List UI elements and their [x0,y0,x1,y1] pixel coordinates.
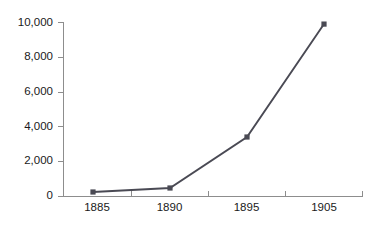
y-tick-label-0: 0 [47,189,53,201]
data-point-1895 [244,134,249,139]
x-tick-label-1905: 1905 [311,201,337,213]
y-tick-label-6000: 6,000 [24,85,53,97]
data-series-group [90,21,326,194]
x-tick-label-1890: 1890 [157,201,183,213]
data-point-1890 [167,185,172,190]
series-marker-group [90,21,326,194]
x-axis-tick-labels: 1885 1890 1895 1905 [84,201,337,213]
line-chart-figure: 0 2,000 4,000 6,000 8,000 10,000 1885 18… [0,0,383,229]
y-axis-ticks [58,23,64,197]
x-tick-label-1895: 1895 [234,201,260,213]
y-tick-label-4000: 4,000 [24,120,53,132]
y-tick-label-10000: 10,000 [18,16,53,28]
y-axis-tick-labels: 0 2,000 4,000 6,000 8,000 10,000 [18,16,53,201]
chart-canvas: 0 2,000 4,000 6,000 8,000 10,000 1885 18… [0,0,383,229]
series-line-path [93,24,324,192]
x-tick-label-1885: 1885 [84,201,110,213]
data-point-1905 [321,21,326,26]
data-point-1885 [90,189,95,194]
y-tick-label-8000: 8,000 [24,50,53,62]
y-tick-label-2000: 2,000 [24,154,53,166]
